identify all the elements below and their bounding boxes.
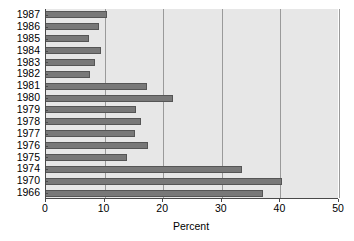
y-axis-tick-1986 bbox=[45, 27, 48, 28]
x-axis-label-40: 40 bbox=[274, 202, 286, 214]
bar-chart-figure: 1987198619851984198319821981198019791978… bbox=[0, 0, 354, 241]
y-axis-label-1977: 1977 bbox=[17, 128, 40, 140]
bar-row bbox=[46, 187, 339, 199]
x-axis-tick-30 bbox=[221, 199, 222, 202]
bar-1974 bbox=[46, 166, 242, 173]
bar-1979 bbox=[46, 106, 136, 113]
bar-1980 bbox=[46, 95, 173, 102]
x-axis-tick-20 bbox=[162, 199, 163, 202]
bar-1977 bbox=[46, 130, 135, 137]
plot-area bbox=[45, 9, 338, 199]
x-axis-tick-40 bbox=[279, 199, 280, 202]
bar-1982 bbox=[46, 71, 90, 78]
bar-row bbox=[46, 152, 339, 164]
y-axis-tick-1976 bbox=[45, 146, 48, 147]
gridline-50 bbox=[339, 9, 340, 198]
x-axis-tick-0 bbox=[45, 199, 46, 202]
y-axis-tick-1966 bbox=[45, 193, 48, 194]
x-axis-label-10: 10 bbox=[98, 202, 110, 214]
bar-row bbox=[46, 116, 339, 128]
bar-row bbox=[46, 45, 339, 57]
x-axis-label-50: 50 bbox=[332, 202, 344, 214]
bar-1984 bbox=[46, 47, 101, 54]
y-axis-tick-1985 bbox=[45, 39, 48, 40]
x-axis-tick-10 bbox=[104, 199, 105, 202]
y-axis-category-labels: 1987198619851984198319821981198019791978… bbox=[0, 9, 43, 199]
bar-1978 bbox=[46, 118, 141, 125]
bar-row bbox=[46, 92, 339, 104]
bar-1986 bbox=[46, 23, 99, 30]
y-axis-tick-1987 bbox=[45, 15, 48, 16]
y-axis-tick-1977 bbox=[45, 134, 48, 135]
bar-row bbox=[46, 68, 339, 80]
y-axis-tick-1974 bbox=[45, 169, 48, 170]
bar-1970 bbox=[46, 178, 282, 185]
y-axis-label-1985: 1985 bbox=[17, 33, 40, 45]
bar-row bbox=[46, 128, 339, 140]
bar-1976 bbox=[46, 142, 148, 149]
bar-row bbox=[46, 175, 339, 187]
bar-row bbox=[46, 33, 339, 45]
y-axis-label-1978: 1978 bbox=[17, 116, 40, 128]
y-axis-tick-1983 bbox=[45, 62, 48, 63]
y-axis-tick-1982 bbox=[45, 74, 48, 75]
y-axis-tick-1979 bbox=[45, 110, 48, 111]
bar-row bbox=[46, 80, 339, 92]
bar-1987 bbox=[46, 11, 107, 18]
bar-1985 bbox=[46, 35, 89, 42]
bar-1966 bbox=[46, 190, 263, 197]
y-axis-label-1984: 1984 bbox=[17, 45, 40, 57]
y-axis-label-1966: 1966 bbox=[17, 187, 40, 199]
y-axis-tick-1970 bbox=[45, 181, 48, 182]
y-axis-label-1976: 1976 bbox=[17, 140, 40, 152]
y-axis-tick-1981 bbox=[45, 86, 48, 87]
x-axis-label-0: 0 bbox=[42, 202, 48, 214]
y-axis-tick-1975 bbox=[45, 157, 48, 158]
bar-1981 bbox=[46, 83, 147, 90]
bar-1975 bbox=[46, 154, 127, 161]
bar-row bbox=[46, 104, 339, 116]
y-axis-label-1986: 1986 bbox=[17, 21, 40, 33]
bar-row bbox=[46, 140, 339, 152]
x-axis-title: Percent bbox=[0, 220, 354, 232]
bar-row bbox=[46, 163, 339, 175]
x-axis-title-label: Percent bbox=[173, 220, 209, 232]
y-axis-tick-1980 bbox=[45, 98, 48, 99]
bar-row bbox=[46, 9, 339, 21]
bars-layer bbox=[46, 9, 338, 198]
x-axis-tick-50 bbox=[338, 199, 339, 202]
bar-row bbox=[46, 21, 339, 33]
x-axis-label-30: 30 bbox=[215, 202, 227, 214]
x-axis-label-20: 20 bbox=[156, 202, 168, 214]
bar-1983 bbox=[46, 59, 95, 66]
y-axis-tick-1978 bbox=[45, 122, 48, 123]
y-axis-tick-1984 bbox=[45, 51, 48, 52]
bar-row bbox=[46, 57, 339, 69]
